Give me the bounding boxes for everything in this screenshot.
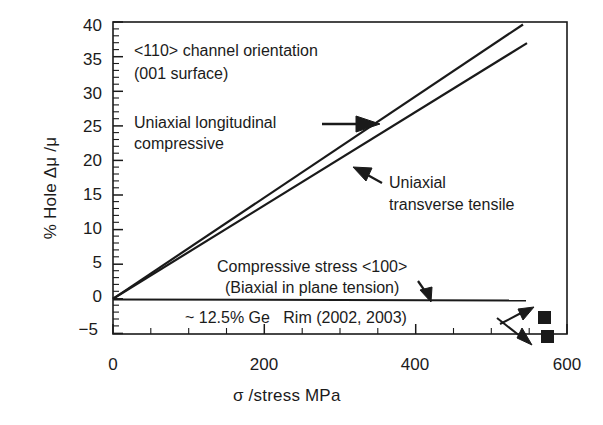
arrow-uniaxial-transverse xyxy=(353,167,382,183)
annotation-ge-rim-reference: ~ 12.5% Ge Rim (2002, 2003) xyxy=(185,307,407,328)
arrow-rim-reference-lower xyxy=(497,318,532,345)
annotation-channel-orientation-line2: (001 surface) xyxy=(134,63,228,84)
annotation-uniaxial-longitudinal-line1: Uniaxial longitudinal xyxy=(134,112,276,133)
data-marker-square xyxy=(538,311,551,324)
series-rim-data-markers xyxy=(538,311,554,343)
annotation-uniaxial-transverse-line2: transverse tensile xyxy=(389,194,514,215)
annotation-channel-orientation-line1: <110> channel orientation xyxy=(134,40,318,61)
arrow-compressive-stress xyxy=(418,281,432,302)
annotation-compressive-stress-line1: Compressive stress <100> xyxy=(217,256,407,277)
annotation-uniaxial-transverse-line1: Uniaxial xyxy=(389,172,446,193)
annotation-compressive-stress-line2: (Biaxial in plane tension) xyxy=(225,277,399,298)
y-axis-minor-ticks xyxy=(113,29,119,326)
x-axis-minor-ticks xyxy=(151,328,529,334)
y-axis-major-ticks xyxy=(113,22,123,333)
chart-figure: % Hole Δμ /μ σ /stress MPa 40 35 30 25 2… xyxy=(0,0,603,425)
series-compressive-stress-100 xyxy=(113,300,526,301)
data-marker-square xyxy=(541,330,554,343)
arrow-rim-reference-upper xyxy=(500,307,534,324)
annotation-uniaxial-longitudinal-line2: compressive xyxy=(134,133,224,154)
arrow-uniaxial-longitudinal xyxy=(322,116,380,132)
